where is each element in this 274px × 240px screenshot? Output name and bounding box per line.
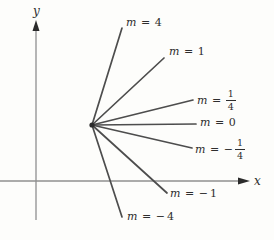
slope-label-m-neg-1-4: m = −14 xyxy=(195,139,245,162)
label-part-var: m xyxy=(169,45,179,58)
label-part-eq: = xyxy=(180,187,198,200)
label-part-sign: − xyxy=(156,210,165,223)
label-part-num: 1 xyxy=(235,138,245,149)
label-part-val: 1 xyxy=(198,45,205,58)
label-part-val: 4 xyxy=(155,16,162,29)
label-part-val: 4 xyxy=(167,210,174,223)
label-part-val: 0 xyxy=(229,116,236,129)
fraction: 14 xyxy=(235,138,245,161)
convergence-point xyxy=(89,122,94,127)
label-part-var: m xyxy=(197,94,207,107)
label-part-var: m xyxy=(127,210,137,223)
slope-label-m-1: m = 1 xyxy=(169,46,205,58)
label-part-var: m xyxy=(200,116,210,129)
label-part-eq: = xyxy=(207,94,225,107)
slope-line-m-1-4 xyxy=(92,100,193,125)
fraction: 14 xyxy=(226,89,236,112)
label-part-val: 1 xyxy=(210,187,217,200)
label-part-eq: = xyxy=(205,143,223,156)
label-part-den: 4 xyxy=(226,100,236,112)
slope-label-m-1-4: m = 14 xyxy=(197,90,236,113)
label-part-sign: − xyxy=(199,187,208,200)
slope-label-m-0: m = 0 xyxy=(200,117,236,129)
label-part-eq: = xyxy=(136,16,154,29)
label-part-eq: = xyxy=(210,116,228,129)
label-part-eq: = xyxy=(179,45,197,58)
x-axis-label: x xyxy=(254,175,261,187)
slope-line-m-0 xyxy=(92,124,196,125)
label-part-var: m xyxy=(126,16,136,29)
slope-label-m-4: m = 4 xyxy=(126,17,162,29)
slope-label-m-neg-4: m = −4 xyxy=(127,211,174,223)
slope-label-m-neg-1: m = −1 xyxy=(170,188,217,200)
label-part-den: 4 xyxy=(235,149,245,161)
y-axis-arrowhead-icon xyxy=(33,20,40,31)
x-axis-arrowhead-icon xyxy=(238,178,250,185)
slope-diagram: y x m = 4m = 1m = 14m = 0m = −14m = −1m … xyxy=(0,0,274,240)
label-part-sign: − xyxy=(224,143,233,156)
label-part-var: m xyxy=(195,143,205,156)
label-part-eq: = xyxy=(137,210,155,223)
slope-line-m-neg-1-4 xyxy=(92,125,192,148)
y-axis-label: y xyxy=(33,5,40,17)
label-part-num: 1 xyxy=(226,89,236,100)
label-part-var: m xyxy=(170,187,180,200)
